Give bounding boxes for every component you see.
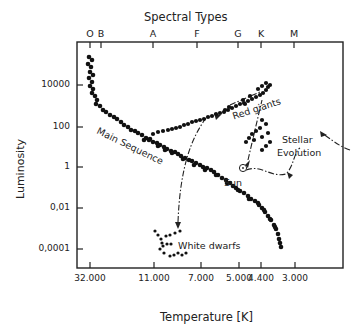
x-axis-title: Temperature [K] [160, 310, 253, 324]
annotation-white-dwarfs: White dwarfs [178, 240, 240, 251]
spectral-type-label: B [98, 28, 105, 39]
spectral-type-label: F [194, 28, 199, 39]
temperature-tick-label: 4.400 [248, 273, 274, 283]
luminosity-tick-label: 10000 [10, 79, 70, 89]
annotation-evolution: Evolution [277, 147, 321, 158]
y-axis-title: Luminosity [14, 139, 27, 199]
spectral-type-ticks [90, 42, 294, 48]
sun-icon [239, 164, 246, 171]
temperature-ticks [90, 262, 295, 268]
temperature-tick-label: 11.000 [138, 273, 170, 283]
star-points [86, 55, 284, 258]
spectral-type-label: A [150, 28, 157, 39]
luminosity-tick-label: 0,01 [10, 202, 70, 212]
annotation-stellar: Stellar [282, 134, 313, 145]
temperature-tick-label: 7.000 [188, 273, 214, 283]
white-dwarf-track [178, 118, 206, 222]
luminosity-ticks [77, 85, 83, 249]
spectral-type-label: G [234, 28, 241, 39]
spectral-type-label: O [86, 28, 93, 39]
spectral-types-title: Spectral Types [144, 10, 228, 24]
spectral-type-label: K [258, 28, 264, 39]
stellar-evolution-return [323, 134, 350, 150]
temperature-tick-label: 32.000 [74, 273, 106, 283]
annotation-sun: Sun [224, 177, 242, 188]
temperature-tick-label: 3.000 [282, 273, 308, 283]
luminosity-tick-label: 100 [10, 121, 70, 131]
luminosity-tick-label: 0,0001 [10, 243, 70, 253]
spectral-type-label: M [290, 28, 298, 39]
